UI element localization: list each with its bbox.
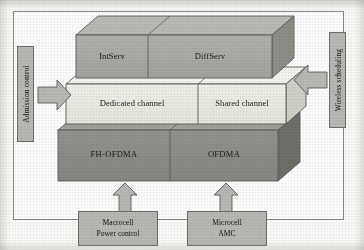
middle-layer-front-face xyxy=(66,84,286,124)
top-layer-group xyxy=(76,16,294,78)
microcell-amc-box[interactable]: Microcell AMC xyxy=(187,211,267,246)
microcell-label-line2: AMC xyxy=(218,229,235,239)
admission-control-box[interactable]: Admission control xyxy=(17,46,34,142)
top-layer-top-face xyxy=(76,16,294,35)
diagram-canvas: IntServ DiffServ Dedicated channel Share… xyxy=(0,0,364,250)
microcell-label-line1: Microcell xyxy=(212,218,242,228)
macrocell-power-control-box[interactable]: Macrocell Power control xyxy=(78,211,158,246)
top-layer-front-face xyxy=(76,35,272,78)
macrocell-label-line2: Power control xyxy=(97,229,140,239)
macrocell-label-line1: Macrocell xyxy=(103,218,134,228)
wireless-scheduling-box[interactable]: Wireless scheduling xyxy=(329,32,346,128)
layer-stack-svg xyxy=(0,0,364,250)
wireless-scheduling-label: Wireless scheduling xyxy=(333,49,342,111)
admission-control-label: Admission control xyxy=(21,65,30,122)
microcell-arrow-icon xyxy=(214,183,238,212)
macrocell-arrow-icon xyxy=(113,183,137,212)
bottom-layer-front-face xyxy=(58,130,278,181)
